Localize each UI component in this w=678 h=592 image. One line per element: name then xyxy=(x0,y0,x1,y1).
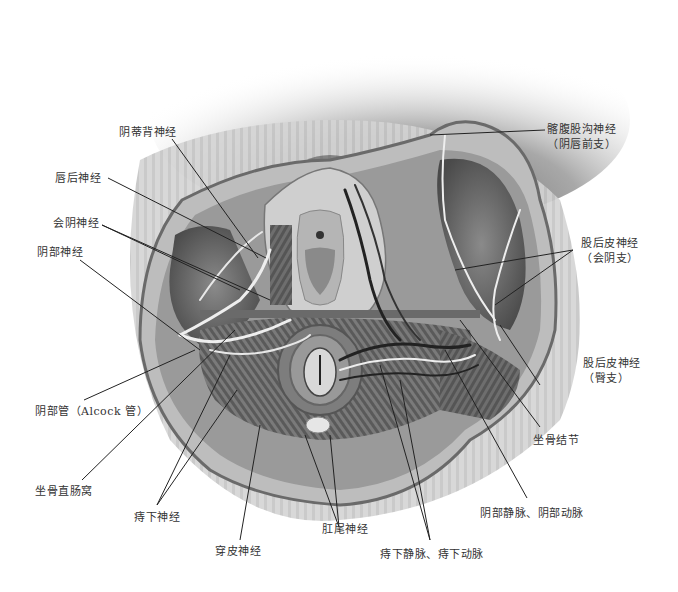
label-perforating-cutaneous-nerve: 穿皮神经 xyxy=(215,544,261,559)
label-line1: 股后皮神经 xyxy=(583,356,641,371)
urogenital-region xyxy=(264,168,385,320)
label-line1: 股后皮神经 xyxy=(581,236,639,251)
label-ischiorectal-fossa: 坐骨直肠窝 xyxy=(35,484,93,499)
label-anococcygeal-nerve: 肛尾神经 xyxy=(322,522,368,537)
label-posterior-femoral-cutaneous-perineal: 股后皮神经 （会阴支） xyxy=(581,236,639,266)
transverse-perineal-bar xyxy=(200,310,480,318)
label-line2: （臀支） xyxy=(583,371,641,386)
label-ilioinguinal-nerve: 髂腹股沟神经 （阴唇前支） xyxy=(547,122,616,152)
label-pudendal-vessels: 阴部静脉、阴部动脉 xyxy=(480,506,584,521)
label-pudendal-nerve: 阴部神经 xyxy=(37,245,83,260)
perineum-illustration xyxy=(0,0,678,592)
label-inferior-rectal-vessels: 痔下静脉、痔下动脉 xyxy=(380,547,484,562)
label-line2: （会阴支） xyxy=(581,251,639,266)
label-dorsal-nerve-clitoris: 阴蒂背神经 xyxy=(119,125,177,140)
label-line1: 髂腹股沟神经 xyxy=(547,122,616,137)
label-perineal-nerve: 会阴神经 xyxy=(53,216,99,231)
label-pudendal-canal: 阴部管（Alcock 管） xyxy=(35,404,148,419)
label-inferior-rectal-nerve: 痔下神经 xyxy=(134,510,180,525)
label-line2: （阴唇前支） xyxy=(547,137,616,152)
label-posterior-labial-nerve: 唇后神经 xyxy=(55,171,101,186)
label-posterior-femoral-cutaneous-gluteal: 股后皮神经 （臀支） xyxy=(583,356,641,386)
label-ischial-tuberosity: 坐骨结节 xyxy=(533,433,579,448)
